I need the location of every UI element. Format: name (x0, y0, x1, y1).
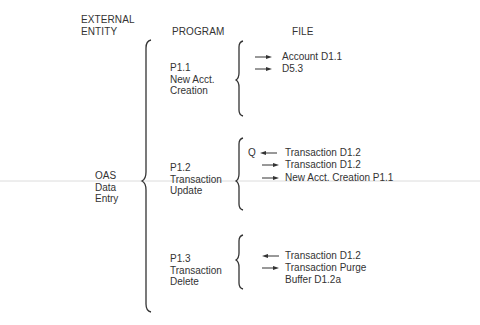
header-external-entity-line1: EXTERNAL (81, 14, 135, 26)
program-id: P1.1 (170, 62, 214, 74)
program-id: P1.2 (170, 162, 222, 174)
program-name-line: New Acct. (170, 74, 214, 86)
file-prefix-q: Q (248, 147, 256, 159)
arrow-left-icon (262, 254, 279, 258)
program-name-line: Transaction (170, 174, 222, 186)
program-p1-3: P1.3 Transaction Delete (170, 253, 222, 288)
program-p1-2: P1.2 Transaction Update (170, 162, 222, 197)
file-d5-3: D5.3 (282, 63, 303, 75)
file-buffer-d1-2a: Buffer D1.2a (285, 274, 341, 286)
header-file: FILE (292, 26, 314, 38)
file-account-d1-1: Account D1.1 (282, 51, 342, 63)
program-name-line: Creation (170, 85, 214, 97)
program-name-line: Delete (170, 276, 222, 288)
program-name-line: Update (170, 185, 222, 197)
program-id: P1.3 (170, 253, 222, 265)
brace-p1-2 (236, 138, 243, 210)
diagram-lines (0, 0, 480, 325)
header-program: PROGRAM (172, 26, 224, 38)
arrow-right-icon (255, 67, 272, 71)
file-transaction-d1-2-out: Transaction D1.2 (285, 159, 361, 171)
external-entity-line: Entry (95, 193, 118, 205)
header-external-entity-line2: ENTITY (81, 26, 135, 38)
arrow-left-icon (260, 151, 277, 155)
program-p1-1: P1.1 New Acct. Creation (170, 62, 214, 97)
file-transaction-d1-2-in: Transaction D1.2 (285, 250, 361, 262)
external-entity-oas-data-entry: OAS Data Entry (95, 170, 118, 205)
arrow-right-icon (255, 55, 272, 59)
program-name-line: Transaction (170, 265, 222, 277)
arrow-right-icon (262, 266, 279, 270)
file-transaction-d1-2-in: Transaction D1.2 (285, 147, 361, 159)
brace-large (142, 40, 151, 312)
arrow-right-icon (262, 176, 279, 180)
brace-p1-3 (236, 235, 243, 289)
header-external-entity: EXTERNAL ENTITY (81, 14, 135, 37)
external-entity-line: OAS (95, 170, 118, 182)
arrow-right-icon (262, 163, 279, 167)
brace-p1-1 (236, 41, 243, 116)
file-transaction-purge: Transaction Purge (285, 262, 366, 274)
external-entity-line: Data (95, 182, 118, 194)
file-new-acct-creation-p1-1: New Acct. Creation P1.1 (285, 172, 393, 184)
